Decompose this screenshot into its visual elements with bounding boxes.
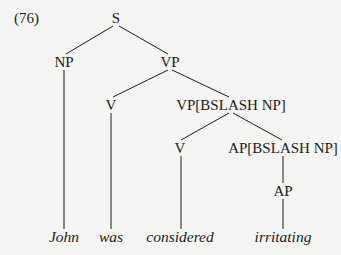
- edge-vpslash-v: [181, 113, 229, 140]
- edge-vp-v: [113, 70, 168, 97]
- node-vp: VP: [160, 55, 179, 70]
- leaf-was: was: [99, 229, 123, 245]
- leaf-irritating: irritating: [255, 229, 312, 245]
- edge-vpslash-apslash: [233, 113, 282, 140]
- leaf-considered: considered: [146, 229, 213, 245]
- node-vp-bslash-np: VP[BSLASH NP]: [176, 98, 286, 113]
- node-ap: AP: [273, 184, 292, 199]
- edge-s-np: [66, 26, 113, 54]
- example-number: (76): [14, 11, 39, 26]
- edge-s-vp: [119, 26, 168, 54]
- node-v-considered: V: [175, 141, 186, 156]
- node-ap-bslash-np: AP[BSLASH NP]: [228, 141, 338, 156]
- edge-vp-vpslash: [172, 70, 229, 97]
- syntax-tree-diagram: (76) S NP VP V VP[BSLASH NP] V AP[BSLASH…: [0, 0, 341, 255]
- node-v-was: V: [106, 98, 117, 113]
- leaf-john: John: [49, 229, 79, 245]
- node-s: S: [112, 11, 120, 26]
- node-np: NP: [54, 55, 73, 70]
- tree-edges: [0, 0, 341, 255]
